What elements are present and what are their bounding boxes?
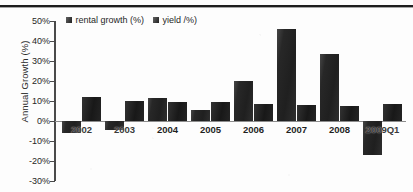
page-horizontal-rule-shadow bbox=[0, 7, 413, 8]
legend-entry-yield: yield /%) bbox=[153, 15, 197, 25]
plot-area: 20022003200420052006200720082009Q1 bbox=[54, 21, 406, 181]
legend-swatch-yield bbox=[153, 17, 159, 23]
legend-label: rental growth (%) bbox=[76, 15, 145, 25]
y-axis-tick-label: 40% bbox=[16, 36, 50, 46]
x-axis-tick-label-2003: 2003 bbox=[114, 124, 135, 135]
y-axis-tick-label: -20% bbox=[16, 156, 50, 166]
y-axis-tick-mark bbox=[50, 181, 55, 182]
y-axis-tick-label: -30% bbox=[16, 176, 50, 186]
y-axis-tick-mark bbox=[50, 61, 55, 62]
legend-label: yield /%) bbox=[163, 15, 198, 25]
y-axis-tick-label: 50% bbox=[16, 16, 50, 26]
x-axis-tick-labels: 20022003200420052006200720082009Q1 bbox=[54, 21, 406, 181]
x-axis-tick-label-2004: 2004 bbox=[157, 124, 178, 135]
y-axis-tick-mark bbox=[50, 41, 55, 42]
x-axis-tick-label-2007: 2007 bbox=[286, 124, 307, 135]
chart-screenshot: Annual Growth (%) 50%40%30%20%10%0%-10%-… bbox=[0, 0, 413, 192]
y-axis-tick-mark bbox=[50, 161, 55, 162]
y-axis-tick-mark bbox=[50, 121, 55, 122]
y-axis-tick-mark bbox=[50, 141, 55, 142]
x-axis-tick-label-2008: 2008 bbox=[329, 124, 350, 135]
y-axis-tick-label: 0% bbox=[16, 116, 50, 126]
legend-entry-rental-growth: rental growth (%) bbox=[66, 15, 144, 25]
x-axis-tick-label-2005: 2005 bbox=[200, 124, 221, 135]
x-axis-tick-label-2006: 2006 bbox=[243, 124, 264, 135]
y-axis-tick-labels: 50%40%30%20%10%0%-10%-20%-30% bbox=[16, 0, 50, 192]
y-axis-tick-label: 30% bbox=[16, 56, 50, 66]
chart-legend: rental growth (%)yield /%) bbox=[66, 14, 197, 26]
x-axis-tick-label-2002: 2002 bbox=[71, 124, 92, 135]
legend-swatch-rental-growth bbox=[66, 17, 72, 23]
y-axis-tick-label: 20% bbox=[16, 76, 50, 86]
x-axis-tick-label-2009Q1: 2009Q1 bbox=[366, 124, 400, 135]
y-axis-tick-label: 10% bbox=[16, 96, 50, 106]
y-axis-tick-mark bbox=[50, 81, 55, 82]
y-axis-tick-label: -10% bbox=[16, 136, 50, 146]
y-axis-tick-mark bbox=[50, 21, 55, 22]
y-axis-tick-mark bbox=[50, 101, 55, 102]
